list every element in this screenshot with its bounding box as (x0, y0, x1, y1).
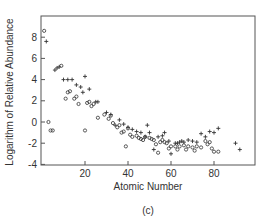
data-point-circle (217, 150, 220, 153)
data-point-cross (216, 126, 220, 130)
data-point-circle (210, 147, 213, 150)
data-point-circle (212, 150, 215, 153)
y-axis-ticks: 86420-2-4 (28, 32, 45, 170)
data-point-cross (191, 139, 195, 143)
data-point-cross (74, 83, 78, 87)
data-point-cross (139, 131, 143, 135)
data-point-cross (152, 148, 156, 152)
scatter-chart: 86420-2-4 20406080 Atomic Number Logarit… (0, 0, 269, 224)
data-point-circle (77, 102, 80, 105)
data-point-circle (111, 121, 114, 124)
y-tick-label: -2 (28, 138, 37, 149)
data-point-circle (174, 145, 177, 148)
data-point-cross (195, 140, 199, 144)
data-point-circle (75, 95, 78, 98)
data-point-cross (167, 139, 171, 143)
data-point-cross (186, 138, 190, 142)
data-point-cross (62, 78, 66, 82)
data-point-circle (131, 135, 134, 138)
data-point-circle (124, 145, 127, 148)
plot-frame (41, 16, 255, 165)
data-point-cross (81, 90, 85, 94)
y-tick-label: 0 (31, 117, 37, 128)
y-tick-label: 2 (31, 95, 37, 106)
x-tick-label: 20 (79, 168, 91, 179)
data-point-cross (70, 78, 74, 82)
data-point-circle (154, 143, 157, 146)
y-tick-label: 8 (31, 32, 37, 43)
data-point-cross (199, 132, 203, 136)
data-point-cross (203, 135, 207, 139)
x-tick-label: 80 (208, 168, 220, 179)
data-point-cross (208, 130, 212, 134)
x-axis-ticks: 20406080 (79, 161, 220, 179)
data-point-cross (163, 131, 167, 135)
x-tick-label: 40 (122, 168, 134, 179)
data-point-circle (195, 145, 198, 148)
data-point-cross (130, 127, 134, 131)
data-point-circle (43, 29, 46, 32)
figure-caption: (c) (142, 205, 154, 216)
data-point-cross (79, 85, 83, 89)
x-axis-label: Atomic Number (114, 181, 184, 192)
data-point-circle (107, 117, 110, 120)
data-point-circle (47, 120, 50, 123)
data-point-circle (182, 144, 185, 147)
data-point-cross (66, 78, 70, 82)
data-point-cross (105, 110, 109, 114)
data-point-circle (92, 102, 95, 105)
data-point-cross (122, 122, 126, 126)
data-point-circle (51, 129, 54, 132)
y-tick-label: -4 (28, 159, 37, 170)
data-point-cross (113, 123, 117, 127)
data-point-cross (96, 100, 100, 104)
data-point-cross (83, 74, 87, 78)
data-point-cross (87, 87, 91, 91)
data-point-circle (191, 146, 194, 149)
data-point-circle (103, 113, 106, 116)
data-point-circle (184, 148, 187, 151)
x-tick-label: 60 (165, 168, 177, 179)
data-point-circle (193, 149, 196, 152)
data-point-circle (96, 116, 99, 119)
data-point-cross (117, 118, 121, 122)
series-circles (43, 29, 220, 154)
data-point-circle (157, 151, 160, 154)
data-point-circle (118, 124, 121, 127)
data-point-cross (53, 68, 57, 72)
data-point-cross (160, 134, 164, 138)
data-point-cross (234, 141, 238, 145)
plot-area-border (41, 16, 255, 165)
data-point-circle (187, 145, 190, 148)
data-point-cross (156, 135, 160, 139)
data-point-circle (176, 148, 179, 151)
data-point-cross (238, 148, 242, 152)
data-point-circle (204, 139, 207, 142)
data-point-cross (148, 131, 152, 135)
y-tick-label: 6 (31, 53, 37, 64)
data-point-circle (169, 145, 172, 148)
data-point-circle (200, 146, 203, 149)
data-point-cross (169, 152, 173, 156)
data-point-circle (208, 141, 211, 144)
data-point-circle (83, 129, 86, 132)
data-point-cross (44, 39, 48, 43)
data-point-cross (145, 123, 149, 127)
y-axis-label: Logarithm of Relative Abundance (4, 18, 15, 166)
data-point-circle (64, 97, 67, 100)
data-point-circle (178, 145, 181, 148)
data-point-cross (212, 131, 216, 135)
y-tick-label: 4 (31, 74, 37, 85)
data-point-cross (135, 130, 139, 134)
